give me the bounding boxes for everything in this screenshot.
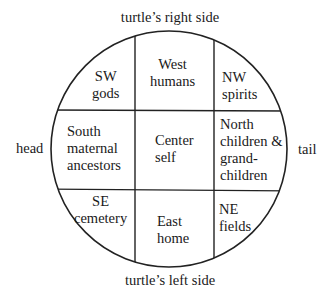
cell-meaning: gods <box>92 85 119 102</box>
label-turtle-left-side: turtle’s left side <box>100 272 240 289</box>
cell-meaning: maternal <box>67 140 121 157</box>
cell-direction: NE <box>219 201 251 218</box>
cell-nw-spirits: NW spirits <box>222 69 257 103</box>
cell-direction: South <box>67 123 121 140</box>
cell-ne-fields: NE fields <box>219 201 251 235</box>
label-tail: tail <box>298 141 317 158</box>
cell-meaning: fields <box>219 218 251 235</box>
cell-se-cemetery: SE cemetery <box>74 193 127 227</box>
cell-meaning: grand- <box>220 150 282 167</box>
cell-west-humans: West humans <box>150 56 195 90</box>
cell-direction: Center <box>155 132 194 149</box>
cell-meaning: children & <box>220 133 282 150</box>
cell-direction: NW <box>222 69 257 86</box>
cell-direction: West <box>150 56 195 73</box>
cell-direction: SE <box>74 193 127 210</box>
label-head: head <box>16 140 43 157</box>
cell-direction: SW <box>92 68 119 85</box>
cell-east-home: East home <box>157 213 189 247</box>
cell-meaning: ancestors <box>67 157 121 174</box>
label-turtle-right-side: turtle’s right side <box>100 9 240 26</box>
cell-sw-gods: SW gods <box>92 68 119 102</box>
divider-horizontal-bottom <box>40 189 300 191</box>
cell-meaning: cemetery <box>74 210 127 227</box>
cell-center-self: Center self <box>155 132 194 166</box>
cell-direction: East <box>157 213 189 230</box>
cell-meaning: spirits <box>222 86 257 103</box>
cell-meaning: self <box>155 149 194 166</box>
cell-meaning: humans <box>150 73 195 90</box>
cell-meaning: children <box>220 167 282 184</box>
divider-horizontal-top <box>40 110 300 111</box>
cell-meaning: home <box>157 230 189 247</box>
cell-north-children: North children & grand- children <box>220 116 282 184</box>
cell-direction: North <box>220 116 282 133</box>
cell-south-maternal-ancestors: South maternal ancestors <box>67 123 121 174</box>
